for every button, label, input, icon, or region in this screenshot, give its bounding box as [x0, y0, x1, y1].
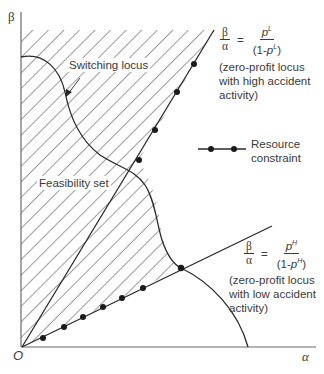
high-eq-den-prefix: (1-	[253, 44, 267, 56]
high-eq-equals: =	[237, 34, 244, 46]
low-eq-rhs-num-sup: H	[292, 239, 297, 246]
low-note-line2: with low accident	[229, 287, 316, 301]
resource-label-line2: constraint	[251, 151, 301, 165]
high-eq-lhs-den: α	[220, 40, 230, 53]
origin-label: O	[13, 349, 23, 363]
low-eq-equals: =	[261, 248, 268, 260]
high-eq-rhs-num-sup: L	[268, 25, 272, 32]
legend-resource-constraint-symbol	[198, 146, 246, 152]
switching-locus-label: Switching locus	[67, 58, 150, 72]
high-note-line2: with high accident	[219, 74, 310, 88]
beta-axis-label: β	[8, 10, 15, 24]
low-eq-lhs-den: α	[244, 254, 254, 267]
low-eq-den-suffix: )	[302, 258, 306, 270]
low-eq-lhs-num: β	[244, 240, 254, 254]
high-note-line3: activity)	[219, 88, 310, 102]
high-eq-lhs-num: β	[220, 26, 230, 40]
high-locus-equation: β α = pL (1-pL)	[220, 22, 283, 57]
alpha-axis-label: α	[302, 350, 309, 364]
diagram-canvas: Switching locus Feasibility set β α O β …	[0, 0, 324, 374]
resource-label-line1: Resource	[251, 137, 301, 151]
feasibility-set-label: Feasibility set	[37, 176, 111, 190]
high-note-line1: (zero-profit locus	[219, 60, 310, 74]
low-note-line1: (zero-profit locus	[229, 273, 316, 287]
low-locus-equation: β α = pH (1-pH)	[244, 236, 308, 271]
low-locus-note: (zero-profit locus with low accident act…	[229, 273, 316, 315]
high-eq-den-suffix: )	[277, 44, 281, 56]
high-locus-note: (zero-profit locus with high accident ac…	[219, 60, 310, 102]
resource-constraint-label: Resource constraint	[251, 137, 301, 165]
low-note-line3: activity)	[229, 301, 316, 315]
low-eq-den-prefix: (1-	[277, 258, 291, 270]
